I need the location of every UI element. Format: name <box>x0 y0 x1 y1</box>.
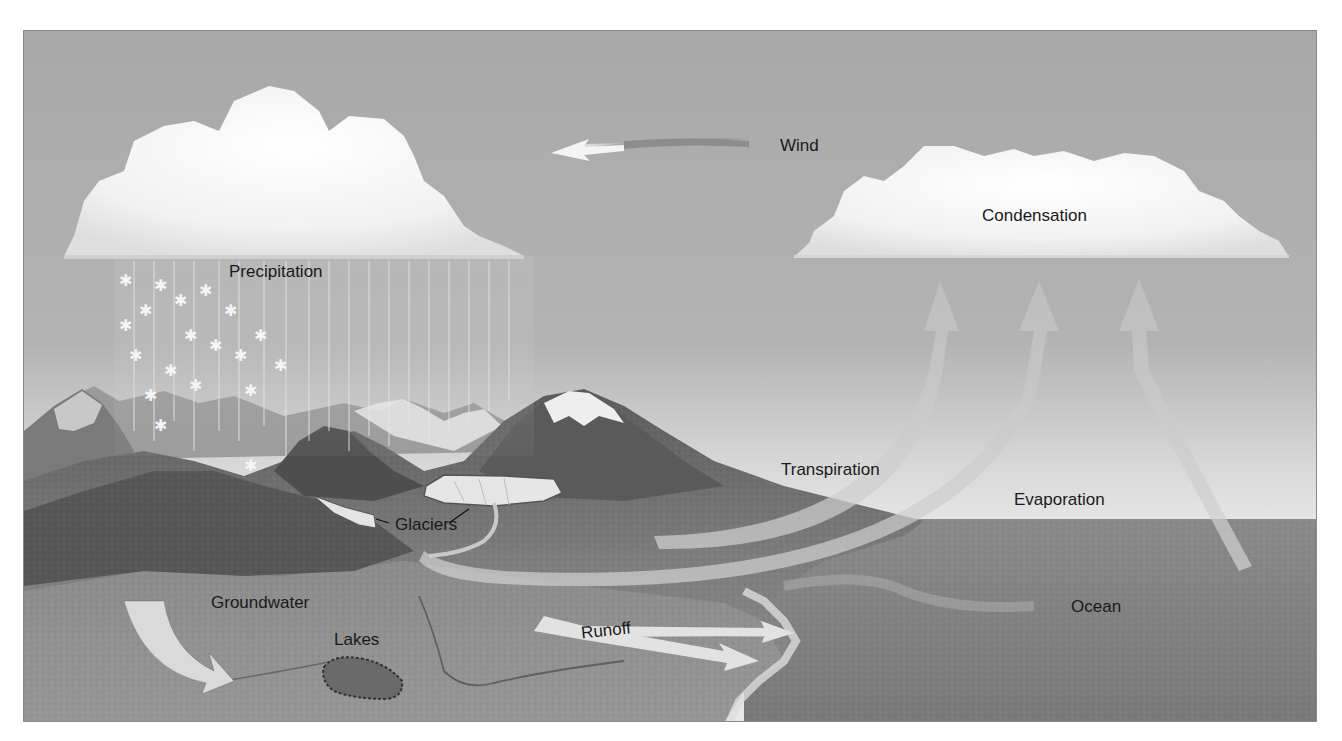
svg-text:✱: ✱ <box>144 386 157 405</box>
label-groundwater: Groundwater <box>211 594 309 611</box>
label-wind: Wind <box>780 137 819 154</box>
svg-text:✱: ✱ <box>164 361 177 380</box>
svg-text:✱: ✱ <box>119 271 132 290</box>
label-evaporation: Evaporation <box>1014 491 1105 508</box>
svg-text:✱: ✱ <box>154 416 167 435</box>
svg-text:✱: ✱ <box>209 336 222 355</box>
svg-text:✱: ✱ <box>244 456 257 475</box>
svg-text:✱: ✱ <box>224 301 237 320</box>
svg-text:✱: ✱ <box>234 346 247 365</box>
svg-text:✱: ✱ <box>199 281 212 300</box>
svg-text:✱: ✱ <box>139 301 152 320</box>
label-glaciers: Glaciers <box>395 516 457 533</box>
label-condensation: Condensation <box>982 207 1087 224</box>
svg-text:✱: ✱ <box>174 291 187 310</box>
rain-streaks <box>114 256 534 456</box>
svg-text:✱: ✱ <box>274 356 287 375</box>
water-cycle-diagram: ✱✱✱ ✱✱✱ ✱✱✱ ✱✱✱ ✱✱✱ ✱✱✱ ✱ <box>23 30 1317 722</box>
svg-text:✱: ✱ <box>254 326 267 345</box>
svg-text:✱: ✱ <box>129 346 142 365</box>
label-precipitation: Precipitation <box>229 263 323 280</box>
svg-text:✱: ✱ <box>244 381 257 400</box>
svg-text:✱: ✱ <box>154 276 167 295</box>
label-transpiration: Transpiration <box>781 461 880 478</box>
svg-text:✱: ✱ <box>184 326 197 345</box>
svg-text:✱: ✱ <box>119 316 132 335</box>
label-ocean: Ocean <box>1071 598 1121 615</box>
water-cycle-illustration: ✱✱✱ ✱✱✱ ✱✱✱ ✱✱✱ ✱✱✱ ✱✱✱ ✱ <box>24 31 1317 722</box>
glacier-large <box>424 475 562 506</box>
svg-text:✱: ✱ <box>189 376 202 395</box>
label-lakes: Lakes <box>334 631 379 648</box>
